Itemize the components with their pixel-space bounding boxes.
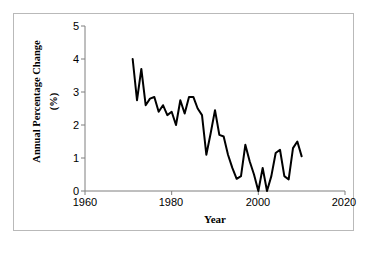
data-series-line <box>133 59 302 191</box>
chart-figure: Annual Percentage Change (%) Year 5 4 3 … <box>0 0 369 258</box>
plot-area <box>0 0 369 258</box>
x-axis-ticks <box>85 191 345 195</box>
y-axis-ticks <box>81 26 85 191</box>
